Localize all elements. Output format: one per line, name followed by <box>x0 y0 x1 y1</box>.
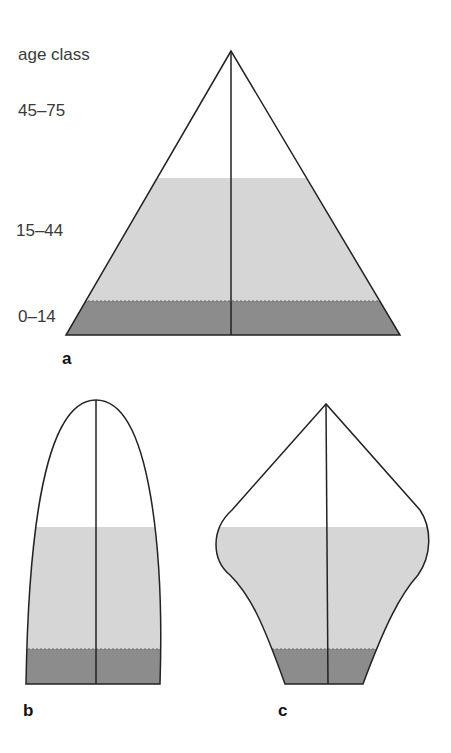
panel-label-c: c <box>278 702 287 719</box>
age-class-label-45-75: 45–75 <box>18 102 65 119</box>
age-class-label-0-14: 0–14 <box>18 308 56 325</box>
pyramid-b <box>0 527 200 685</box>
pyramid-a <box>0 178 451 341</box>
age-pyramids-diagram <box>0 0 451 753</box>
panel-label-b: b <box>23 702 33 719</box>
pyramid-c <box>200 527 451 685</box>
axis-title: age class <box>18 46 90 63</box>
band-reproductive <box>200 527 451 649</box>
panel-label-a: a <box>62 350 71 367</box>
band-prereproductive <box>200 649 451 685</box>
band-prereproductive <box>0 649 200 685</box>
band-reproductive <box>0 178 451 301</box>
age-class-label-15-44: 15–44 <box>16 222 63 239</box>
